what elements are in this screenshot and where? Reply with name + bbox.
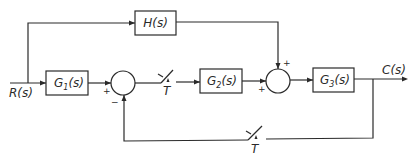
h-output-line	[176, 22, 278, 69]
h-block-label: H(s)	[143, 16, 168, 30]
arrow-into-sum1	[105, 81, 111, 86]
output-label-c: C(s)	[382, 63, 406, 77]
sum1-plus: +	[103, 86, 111, 96]
g2-block-label: G2(s)	[207, 74, 237, 90]
feedback-left-line	[124, 95, 248, 141]
arrow-into-sum2-left	[260, 79, 266, 84]
arrow-into-g2	[194, 80, 200, 85]
forward-sampler-label: T	[163, 84, 172, 98]
g3-block: G3(s)	[313, 68, 354, 92]
output-arrow	[402, 77, 408, 82]
summing-junction-2	[266, 69, 290, 93]
block-diagram: R(s) H(s) + G1(s) + − T G2(s) +	[0, 0, 414, 164]
forward-sampler-tick	[158, 74, 163, 77]
forward-sampler-arrow	[167, 78, 170, 82]
feedback-sampler-label: T	[251, 142, 260, 156]
g1-block: G1(s)	[46, 71, 88, 95]
arrow-into-h	[129, 21, 135, 26]
sum1-minus: −	[111, 97, 119, 107]
feedback-sampler-arrow	[255, 135, 258, 139]
sum2-plus-left: +	[258, 84, 266, 94]
input-label-r: R(s)	[9, 86, 33, 100]
g2-block: G2(s)	[200, 69, 242, 93]
g3-block-label: G3(s)	[320, 73, 350, 89]
arrow-into-g1	[40, 81, 46, 86]
summing-junction-1	[111, 71, 135, 95]
sum2-plus-top: +	[283, 58, 291, 68]
arrow-into-g3	[307, 78, 313, 83]
feedback-sampler-tick	[246, 131, 251, 134]
arrow-into-sum1-bottom	[122, 95, 127, 101]
g1-block-label: G1(s)	[54, 76, 84, 92]
h-block: H(s)	[135, 11, 176, 35]
arrow-into-sum2-top	[276, 63, 281, 69]
